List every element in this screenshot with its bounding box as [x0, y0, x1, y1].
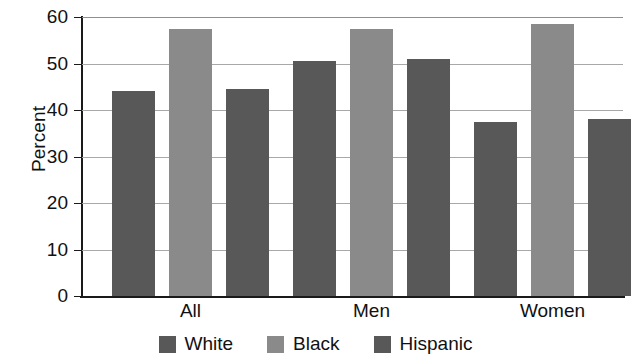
bar-group [293, 17, 450, 296]
legend-item: White [159, 333, 234, 355]
bar-group [474, 17, 631, 296]
bar [226, 89, 269, 296]
bar-group [112, 17, 269, 296]
bar-chart-figure: Percent 0102030405060 AllMenWomen WhiteB… [0, 0, 631, 361]
chart-legend: WhiteBlackHispanic [0, 333, 631, 355]
bar [350, 29, 393, 296]
y-axis-tick [74, 64, 82, 65]
bar [474, 122, 517, 296]
bar [293, 61, 336, 296]
bar [588, 119, 631, 296]
bar [407, 59, 450, 296]
x-axis-tick-label: Men [293, 300, 450, 322]
legend-label: Black [293, 333, 339, 355]
y-axis-tick [74, 296, 82, 297]
y-axis-tick-label: 40 [47, 99, 68, 121]
x-axis-line [80, 296, 625, 298]
legend-item: Black [267, 333, 339, 355]
y-axis-tick-label: 30 [47, 146, 68, 168]
y-axis-tick-label: 50 [47, 53, 68, 75]
y-axis-tick [74, 157, 82, 158]
y-axis-tick [74, 250, 82, 251]
y-axis-tick [74, 203, 82, 204]
legend-swatch-icon [159, 336, 176, 353]
y-axis-tick-label: 0 [57, 285, 68, 307]
y-axis-tick [74, 110, 82, 111]
plot-area: 0102030405060 AllMenWomen [82, 17, 623, 296]
y-axis-tick-label: 20 [47, 192, 68, 214]
legend-swatch-icon [374, 336, 391, 353]
legend-item: Hispanic [374, 333, 473, 355]
x-axis-tick-label: All [112, 300, 269, 322]
bar [169, 29, 212, 296]
legend-swatch-icon [267, 336, 284, 353]
y-axis-tick [74, 17, 82, 18]
bar [531, 24, 574, 296]
y-axis-tick-label: 60 [47, 6, 68, 28]
bar [112, 91, 155, 296]
legend-label: White [185, 333, 234, 355]
legend-label: Hispanic [400, 333, 473, 355]
x-axis-tick-label: Women [474, 300, 631, 322]
y-axis-tick-label: 10 [47, 239, 68, 261]
